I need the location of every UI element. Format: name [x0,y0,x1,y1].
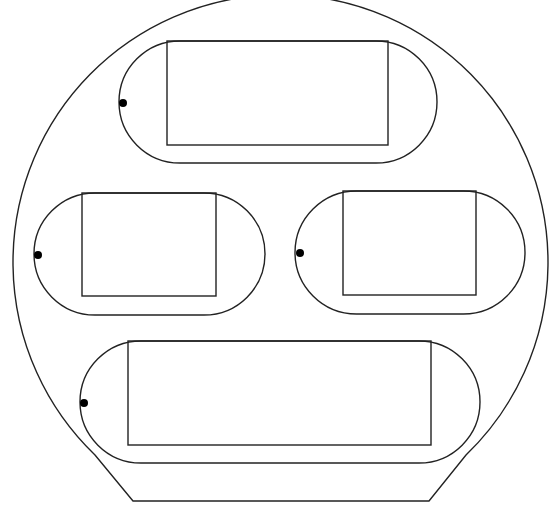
stadium-bottom [80,341,480,463]
outer-truncated-circle [13,0,548,501]
marker-dot [80,399,88,407]
inner-rectangle [128,341,431,445]
stadium-group [34,41,525,463]
diagram-canvas [0,0,556,523]
inner-rectangle [167,41,388,145]
marker-dot [296,249,304,257]
stadium-middle-right [295,191,525,314]
marker-dot [119,99,127,107]
inner-rectangle [343,191,476,295]
stadium-outline [34,193,265,315]
marker-dot [34,251,42,259]
stadium-top [119,41,437,163]
inner-rectangle [82,193,216,296]
stadium-middle-left [34,193,265,315]
